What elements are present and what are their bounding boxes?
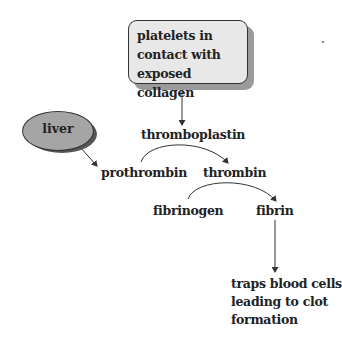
node-prothrombin: prothrombin [101,165,187,180]
arrow-fibrinogen-to-fibrin [188,183,276,201]
node-platelets-line-2: contact with [137,45,247,64]
node-fibrinogen: fibrinogen [153,203,223,218]
node-outcome-line-1: traps blood cells [231,275,342,293]
node-platelets-line-3: exposed collagen [137,64,247,102]
node-outcome-line-2: leading to clot [231,293,342,311]
node-platelets-line-1: platelets in [137,26,247,45]
node-thromboplastin: thromboplastin [141,127,245,142]
node-thrombin: thrombin [203,165,266,180]
arrow-prothrombin-to-thrombin [141,145,228,163]
node-fibrin: fibrin [256,203,294,218]
node-platelets-label: platelets in contact with exposed collag… [137,26,247,102]
node-liver-ellipse: liver [22,111,94,151]
node-outcome-line-3: formation [231,311,342,329]
arrow-liver-to-prothrombin [80,147,97,166]
node-outcome: traps blood cells leading to clot format… [231,275,342,329]
node-platelets-box: platelets in contact with exposed collag… [128,20,248,84]
stray-dot [322,41,324,43]
node-liver-label: liver [23,121,93,136]
